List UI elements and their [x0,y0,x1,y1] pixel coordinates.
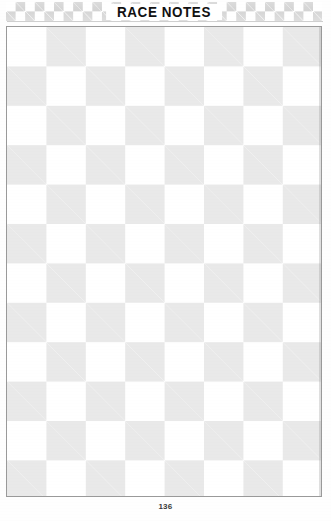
header-checkered-banner: RACE NOTES [6,2,322,21]
header-title-plate: RACE NOTES [106,4,222,20]
page-canvas: RACE NOTES 136 [0,0,331,521]
page-number: 136 [0,502,331,511]
header-divider [7,21,323,22]
checkerboard-pattern [7,27,321,496]
page-title: RACE NOTES [117,5,211,20]
race-notes-area[interactable] [6,26,322,497]
